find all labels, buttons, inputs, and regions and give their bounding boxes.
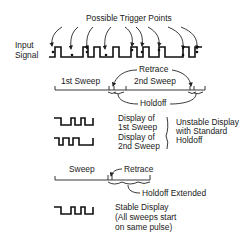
extended-holdoff-timeline: Sweep Retrace Holdoff Extended — [55, 164, 206, 198]
display-first-sweep-waveform — [54, 118, 93, 125]
trigger-holdoff-diagram: Possible Trigger Points Input Signal 1st… — [0, 0, 250, 241]
display-second-sweep-line2: 2nd Sweep — [118, 141, 160, 151]
second-sweep-label: 2nd Sweep — [134, 76, 176, 86]
holdoff-label: Holdoff — [140, 98, 167, 108]
sweep-label: Sweep — [69, 164, 95, 174]
unstable-note-line3: Holdoff — [176, 135, 203, 145]
stable-display-line1: Stable Display — [115, 202, 169, 212]
first-sweep-label: 1st Sweep — [61, 76, 100, 86]
title: Possible Trigger Points — [86, 13, 172, 23]
extended-retrace-label: Retrace — [124, 164, 154, 174]
retrace-label: Retrace — [139, 64, 169, 74]
unstable-bracket — [166, 117, 168, 149]
display-first-sweep-line2: 1st Sweep — [118, 122, 157, 132]
holdoff-extended-label: Holdoff Extended — [142, 188, 206, 198]
stable-display-waveform — [54, 207, 93, 214]
display-second-sweep-waveform — [54, 138, 93, 145]
stable-display-line2: (All sweeps start — [115, 212, 177, 222]
input-signal-label-line1: Input — [15, 40, 34, 50]
trigger-point-markers — [52, 49, 199, 57]
input-signal-label-line2: Signal — [15, 50, 38, 60]
standard-holdoff-timeline: 1st Sweep 2nd Sweep Retrace Holdoff — [55, 64, 205, 108]
trigger-arrows — [52, 27, 197, 49]
stable-display-line3: on same pulse) — [115, 222, 172, 232]
